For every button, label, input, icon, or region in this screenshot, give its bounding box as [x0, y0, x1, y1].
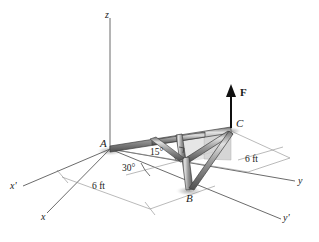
dimension-line-left: [62, 177, 150, 209]
y-prime-axis-label: y': [283, 213, 290, 223]
dimension-tick-left-end: [145, 202, 155, 215]
dimension-right-label: 6 ft: [245, 155, 258, 165]
x-prime-axis-label: x': [10, 181, 17, 191]
point-b-label: B: [186, 193, 193, 204]
x-axis-label: x: [41, 212, 45, 222]
angle-15-label: 15°: [150, 148, 163, 158]
force-arrow-f: [226, 84, 236, 128]
ground-line-right-edge: [231, 131, 290, 158]
y-axis-label: y: [298, 176, 302, 186]
dimension-left-label: 6 ft: [92, 182, 105, 192]
point-a-label: A: [100, 138, 107, 149]
force-label: F: [240, 87, 247, 98]
point-c-label: C: [236, 118, 243, 129]
angle-30-label: 30°: [122, 164, 135, 174]
figure-canvas: z y y' x x' A B C F 15° 30° 6 ft 6 ft: [0, 0, 319, 242]
z-axis-label: z: [105, 10, 109, 20]
dimension-tick-left-start: [57, 170, 68, 183]
diagram-svg: [0, 0, 319, 242]
